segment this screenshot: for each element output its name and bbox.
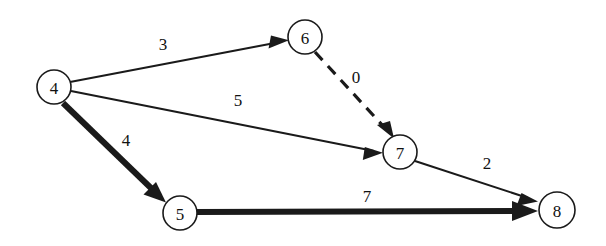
edge-6-7: 0 — [315, 52, 394, 139]
edge-4-5-line — [63, 103, 153, 190]
edge-4-6-arrowhead — [269, 35, 290, 48]
node-6[interactable]: 6 — [288, 20, 322, 54]
edge-4-6-line — [70, 42, 280, 82]
edge-4-5-weight: 4 — [122, 131, 131, 150]
edge-7-8: 2 — [415, 154, 538, 207]
graph-figure: 3 5 4 0 2 7 — [0, 0, 606, 246]
node-4-label: 4 — [50, 79, 59, 98]
edge-4-6: 3 — [70, 35, 289, 83]
edge-7-8-weight: 2 — [483, 154, 492, 173]
edge-4-7-arrowhead — [363, 147, 383, 160]
edge-6-7-weight: 0 — [352, 68, 361, 87]
node-4[interactable]: 4 — [37, 70, 71, 104]
node-5-label: 5 — [176, 205, 185, 224]
node-8-label: 8 — [553, 202, 562, 221]
edge-4-7-weight: 5 — [234, 91, 243, 110]
edge-4-7: 5 — [71, 91, 383, 161]
node-5[interactable]: 5 — [163, 196, 197, 230]
node-8[interactable]: 8 — [539, 192, 575, 228]
node-6-label: 6 — [301, 29, 310, 48]
node-7-label: 7 — [396, 144, 405, 163]
edge-4-7-line — [71, 91, 374, 151]
edge-5-8: 7 — [197, 187, 538, 222]
edge-4-5: 4 — [63, 103, 166, 203]
edge-7-8-line — [415, 161, 528, 198]
graph-canvas: 3 5 4 0 2 7 — [0, 0, 606, 246]
edge-4-6-weight: 3 — [159, 35, 168, 54]
edge-5-8-line — [197, 211, 515, 212]
edge-5-8-weight: 7 — [363, 187, 372, 206]
edge-6-7-line — [315, 52, 384, 127]
node-7[interactable]: 7 — [383, 135, 417, 169]
